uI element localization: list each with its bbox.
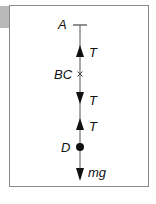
arrow-up-icon [76,118,84,130]
label-mg: mg [88,166,106,179]
label-bc: BC [54,68,72,81]
arrow-down-icon [76,168,84,181]
arrow-up-icon [76,45,84,57]
mass-dot-icon [76,143,84,151]
label-d: D [61,141,70,154]
arrow-down-icon [76,92,84,104]
label-tension-3: T [89,120,97,133]
label-tension-1: T [89,46,97,59]
label-a: A [58,18,67,31]
label-tension-2: T [89,94,97,107]
force-diagram [0,0,156,204]
